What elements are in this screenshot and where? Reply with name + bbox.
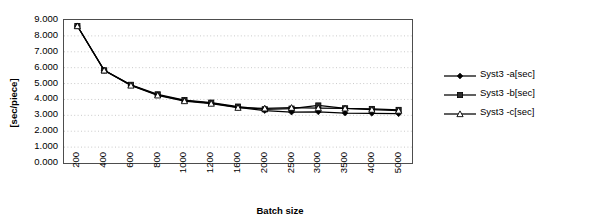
legend-item[interactable]: Syst3 -a[sec] (443, 64, 585, 83)
legend-item-label: Syst3 -b[sec] (480, 87, 535, 99)
x-axis-tick-label: 400 (97, 152, 108, 192)
data-point-square-icon (457, 92, 462, 97)
x-axis-tick-label: 2500 (285, 152, 296, 192)
line-chart: [sec/piece] 9.0008.0007.0006.0005.0004.0… (0, 0, 590, 223)
y-axis-tick-label: 9.000 (16, 14, 58, 24)
x-axis-tick-label: 3500 (338, 152, 349, 192)
y-axis-tick-label: 2.000 (16, 125, 58, 135)
y-axis-tick-label: 4.000 (16, 93, 58, 103)
x-axis-tick-label: 5000 (392, 152, 403, 192)
data-point-diamond-icon (457, 73, 463, 79)
y-axis-tick-label: 5.000 (16, 78, 58, 88)
legend-item-label: Syst3 -a[sec] (480, 68, 535, 80)
y-axis-tick-label: 3.000 (16, 109, 58, 119)
series-line (74, 23, 401, 117)
x-axis-tick-label: 600 (124, 152, 135, 192)
x-axis-tick-labels: 2004006008001000120016002000250030003500… (63, 166, 413, 208)
y-axis-tick-label: 7.000 (16, 46, 58, 56)
y-axis-tick-label: 1.000 (16, 141, 58, 151)
x-axis-tick-label: 1600 (231, 152, 242, 192)
x-axis-tick-label: 4000 (365, 152, 376, 192)
legend-item[interactable]: Syst3 -c[sec] (443, 102, 585, 121)
x-axis-tick-label: 800 (151, 152, 162, 192)
legend-item[interactable]: Syst3 -b[sec] (443, 83, 585, 102)
filled-square-icon (443, 87, 477, 99)
plot-area (63, 19, 413, 164)
chart-legend: Syst3 -a[sec]Syst3 -b[sec]Syst3 -c[sec] (443, 64, 585, 121)
y-axis-tick-labels: 9.0008.0007.0006.0005.0004.0003.0002.000… (16, 13, 58, 163)
x-axis-title: Batch size (200, 205, 360, 216)
series-polyline (77, 26, 398, 114)
series-polyline (77, 26, 398, 111)
legend-item-label: Syst3 -c[sec] (480, 106, 534, 118)
open-triangle-icon (443, 106, 477, 118)
y-axis-tick-label: 6.000 (16, 62, 58, 72)
y-axis-tick-label: 0.000 (16, 157, 58, 167)
x-axis-tick-label: 1200 (204, 152, 215, 192)
x-axis-tick-label: 200 (70, 152, 81, 192)
x-axis-tick-label: 3000 (311, 152, 322, 192)
plot-svg (64, 20, 412, 163)
y-axis-tick-label: 8.000 (16, 30, 58, 40)
x-axis-tick-label: 2000 (258, 152, 269, 192)
filled-diamond-icon (443, 68, 477, 80)
x-axis-tick-label: 1000 (177, 152, 188, 192)
